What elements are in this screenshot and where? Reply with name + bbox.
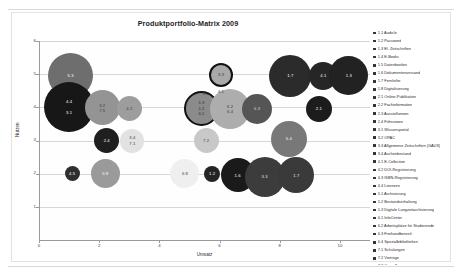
legend-item[interactable]: 1.4 E-Books: [373, 53, 462, 61]
bubble-point[interactable]: 5.4: [271, 121, 307, 157]
legend-item[interactable]: 5.3 Digitale Langzeitarchivierung: [373, 206, 462, 214]
legend-swatch-icon: [373, 40, 376, 43]
bubble-point[interactable]: 4.5: [65, 166, 80, 181]
y-axis-tick: [36, 207, 39, 208]
gridline: [39, 207, 370, 208]
screenshot-root: Produktportfolio-Matrix 2009 123456 0246…: [0, 0, 462, 275]
legend-swatch-icon: [373, 185, 376, 188]
x-axis-tick-label: 8: [273, 244, 287, 248]
bubble-label: 4.4 3.1: [66, 99, 72, 115]
legend-item[interactable]: 2.4 Führungen: [373, 118, 462, 126]
legend-item-label: 3.3 Allgemeine Zeitschriften (GAUS): [378, 144, 441, 148]
legend-swatch-icon: [373, 56, 376, 59]
bubble-point[interactable]: 3.4 7.1: [120, 129, 144, 153]
legend-item-label: 5.3 Digitale Langzeitarchivierung: [378, 208, 434, 212]
x-axis-tick-label: 10: [333, 244, 347, 248]
legend-item[interactable]: 5.1 Archivierung: [373, 190, 462, 198]
bubble-label: 6.8: [182, 171, 188, 176]
legend-item-label: 4.2 DOI-Registrierung: [378, 168, 416, 172]
legend-item[interactable]: 6.2 Arbeitsplätze für Studierende: [373, 222, 462, 230]
legend-item[interactable]: 3.1 Wissensportal: [373, 126, 462, 134]
bubble-point[interactable]: 1.7: [269, 55, 311, 97]
legend-item[interactable]: 4.3 ISBN-Registrierung: [373, 174, 462, 182]
legend-item[interactable]: 1.5 Datenbanken: [373, 61, 462, 69]
legend-item-label: 2.1 Online-Publikation: [378, 95, 416, 99]
legend-item[interactable]: 7.1 Schulungen: [373, 246, 462, 254]
legend-item[interactable]: 3.3 Allgemeine Zeitschriften (GAUS): [373, 142, 462, 150]
chart-legend: 1.1 Audicle1.2 Password1.3 El. Zeitschri…: [373, 29, 462, 265]
legend-item-label: 3.1 Wissensportal: [378, 128, 409, 132]
legend-item[interactable]: 1.2 Password: [373, 37, 462, 45]
bubble-point[interactable]: 6.3: [242, 94, 272, 124]
legend-item-label: 3.2 OPAC: [378, 136, 395, 140]
legend-item[interactable]: 1.6 Dokumentenversand: [373, 69, 462, 77]
bubble-label: 1.6: [235, 173, 241, 178]
legend-swatch-icon: [373, 120, 376, 123]
bubble-point[interactable]: 7.2: [194, 128, 219, 153]
legend-item-label: 1.5 Datenbanken: [378, 63, 408, 67]
legend-item-label: 5.1 Archivierung: [378, 192, 406, 196]
legend-item[interactable]: 7.2 Vorträge: [373, 254, 462, 262]
bubble-label: 3.3: [262, 174, 268, 179]
legend-item[interactable]: 6.3 Freihandbereich: [373, 230, 462, 238]
legend-item[interactable]: 3.4 Aschenbestand: [373, 150, 462, 158]
legend-item-label: 1.3 El. Zeitschriften: [378, 47, 411, 51]
legend-item[interactable]: 3.2 OPAC: [373, 134, 462, 142]
legend-item-label: 6.2 Arbeitsplätze für Studierende: [378, 224, 434, 228]
bubble-label: 3.2 7.5: [99, 103, 105, 114]
legend-item-label: 7.1 Schulungen: [378, 248, 405, 252]
legend-swatch-icon: [373, 72, 376, 75]
legend-item[interactable]: 6.4 Spezialbibliotheken: [373, 238, 462, 246]
legend-swatch-icon: [373, 177, 376, 180]
x-axis-tick-label: 0: [32, 244, 46, 248]
bubble-label: 3.4 7.1: [129, 135, 135, 146]
legend-item[interactable]: 2.3 Ausstellungen: [373, 109, 462, 117]
legend-item-label: 6.3 Freihandbereich: [378, 232, 413, 236]
bubble-label: 1.3: [346, 73, 352, 78]
bubble-label: 7.2: [203, 138, 209, 143]
legend-item[interactable]: 4.1 E-Collection: [373, 158, 462, 166]
legend-item[interactable]: 4.4 Lizenzen: [373, 182, 462, 190]
page-bottom-divider: [8, 266, 454, 267]
y-axis-tick-label: 4: [25, 105, 36, 109]
bubble-point[interactable]: 3.2 7.5: [85, 90, 120, 125]
y-axis-tick: [36, 41, 39, 42]
bubble-label: 6.3: [254, 106, 260, 111]
plot-area: 123456 0246810 5.34.4 3.13.2 7.54.23.31.…: [39, 41, 370, 240]
bubble-point[interactable]: 4.2: [117, 96, 142, 121]
legend-item[interactable]: 1.8 Digitalisierung: [373, 85, 462, 93]
legend-item[interactable]: 1.7 Fernleihe: [373, 77, 462, 85]
legend-item[interactable]: 1.1 Audicle: [373, 29, 462, 37]
bubble-label: 4.2: [126, 106, 132, 111]
gridline: [39, 41, 370, 42]
legend-item-label: 1.4 E-Books: [378, 55, 399, 59]
legend-item-label: 7.3 Open Access: [378, 264, 407, 265]
legend-item[interactable]: 1.3 El. Zeitschriften: [373, 45, 462, 53]
bubble-point[interactable]: 5.9: [91, 159, 120, 188]
bubble-label: 5.4: [286, 136, 292, 141]
legend-item-label: 7.2 Vorträge: [378, 256, 399, 260]
legend-swatch-icon: [373, 217, 376, 220]
legend-item[interactable]: 7.3 Open Access: [373, 262, 462, 265]
legend-item-label: 2.4 Führungen: [378, 120, 403, 124]
legend-item-label: 2.3 Ausstellungen: [378, 112, 409, 116]
legend-swatch-icon: [373, 64, 376, 67]
legend-item[interactable]: 5.2 Bestandserhaltung: [373, 198, 462, 206]
y-axis-tick-label: 1: [25, 205, 36, 209]
y-axis-tick: [36, 107, 39, 108]
bubble-label: 1.2: [209, 171, 215, 176]
y-axis-title: Nutzen: [15, 122, 20, 137]
legend-item[interactable]: 2.1 Online-Publikation: [373, 93, 462, 101]
bubble-point[interactable]: 2.1: [306, 96, 332, 122]
bubble-point[interactable]: 1.2: [204, 166, 220, 182]
y-axis-tick: [36, 74, 39, 75]
legend-swatch-icon: [373, 209, 376, 212]
legend-item[interactable]: 2.2 Fachinformation: [373, 101, 462, 109]
y-axis-tick-label: 5: [25, 72, 36, 76]
legend-swatch-icon: [373, 80, 376, 83]
legend-item[interactable]: 4.2 DOI-Registrierung: [373, 166, 462, 174]
legend-swatch-icon: [373, 88, 376, 91]
bubble-label: 1.3 1.2 6.1: [198, 100, 204, 116]
y-axis-line: [39, 41, 40, 240]
legend-item[interactable]: 6.1 InfoCenter: [373, 214, 462, 222]
